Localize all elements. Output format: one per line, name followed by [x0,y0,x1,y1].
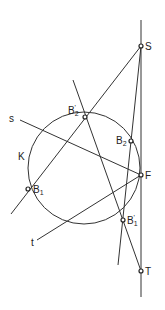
label-b1: B1 [33,184,44,196]
geometry-diagram: S B2' B2 F B1 B1' T K s t [0,0,165,310]
label-b1-prime: B1' [127,214,138,227]
circle-k [28,112,140,224]
line-t [37,175,141,240]
point-t [139,269,143,273]
point-f [139,173,143,177]
label-t: T [145,266,151,277]
label-f: F [145,170,151,181]
label-b2: B2 [116,135,127,147]
line-s-b2 [118,46,141,265]
point-b2 [129,139,133,143]
label-s: S [145,41,152,52]
label-line-s: s [9,113,14,124]
label-circle-k: K [18,151,25,162]
point-s [139,44,143,48]
line-b2p-b1p-t [73,80,141,271]
point-b1 [26,187,30,191]
point-b1-prime [121,218,125,222]
point-b2-prime [83,115,87,119]
label-b2-prime: B2' [68,104,79,117]
label-line-t: t [31,237,34,248]
